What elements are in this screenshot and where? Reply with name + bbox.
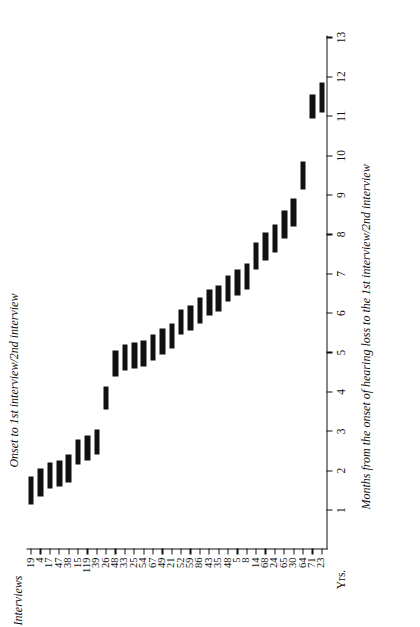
range-bar: [290, 198, 295, 226]
range-bar: [37, 468, 42, 496]
y-tick: [68, 548, 69, 554]
figure-page: Onset to 1st interview/2nd interview Int…: [0, 0, 420, 627]
y-tick: [133, 548, 134, 554]
x-tick-label: 1: [334, 507, 346, 513]
range-bar: [309, 94, 314, 118]
y-tick: [321, 548, 322, 554]
x-tick-label: 8: [334, 231, 346, 237]
range-bar: [262, 232, 267, 260]
y-tick: [283, 548, 284, 554]
y-tick: [264, 548, 265, 554]
y-axis-line: [26, 548, 327, 549]
range-bar: [187, 305, 192, 331]
y-tick: [152, 548, 153, 554]
y-tick: [236, 548, 237, 554]
range-bar: [75, 439, 80, 465]
y-tick: [189, 548, 190, 554]
x-tick: [326, 194, 332, 195]
x-tick: [326, 430, 332, 431]
range-bar: [56, 460, 61, 486]
x-tick-label: 5: [334, 349, 346, 355]
rotated-figure-stage: Onset to 1st interview/2nd interview Int…: [0, 0, 420, 627]
y-tick: [58, 548, 59, 554]
y-tick: [105, 548, 106, 554]
x-tick: [326, 36, 332, 37]
range-bar: [159, 328, 164, 354]
x-tick-label: 10: [334, 149, 346, 161]
y-tick: [49, 548, 50, 554]
range-bar: [281, 210, 286, 238]
range-bar: [178, 309, 183, 335]
series-title: Onset to 1st interview/2nd interview: [6, 293, 21, 467]
x-tick: [326, 233, 332, 234]
range-bar: [225, 275, 230, 301]
x-tick-label: 11: [334, 110, 346, 121]
x-tick: [326, 470, 332, 471]
y-tick: [311, 548, 312, 554]
x-tick-label: 12: [334, 71, 346, 83]
y-axis-title: Interviews: [10, 575, 25, 625]
range-bar: [300, 161, 305, 189]
y-tick: [143, 548, 144, 554]
x-axis-title: Months from the onset of hearing loss to…: [358, 164, 373, 509]
x-tick: [326, 155, 332, 156]
y-tick: [39, 548, 40, 554]
y-tick: [161, 548, 162, 554]
range-bar: [197, 297, 202, 323]
range-bar: [215, 285, 220, 311]
y-tick: [96, 548, 97, 554]
range-bar: [272, 224, 277, 252]
y-tick: [180, 548, 181, 554]
y-tick: [274, 548, 275, 554]
y-tick: [255, 548, 256, 554]
range-bar: [244, 263, 249, 289]
range-bar: [206, 289, 211, 315]
range-bar: [319, 82, 324, 112]
case-label: 23: [316, 557, 327, 627]
y-tick: [208, 548, 209, 554]
range-bar: [234, 269, 239, 295]
x-unit-label: Yrs.: [334, 569, 346, 589]
y-tick: [227, 548, 228, 554]
x-tick-label: 7: [334, 270, 346, 276]
y-tick: [302, 548, 303, 554]
range-bar: [65, 454, 70, 482]
y-tick: [124, 548, 125, 554]
y-tick: [246, 548, 247, 554]
x-tick-label: 2: [334, 467, 346, 473]
x-tick: [326, 352, 332, 353]
range-bar: [169, 323, 174, 349]
range-bar: [84, 435, 89, 461]
range-bar: [28, 476, 33, 504]
range-bar: [103, 386, 108, 410]
y-tick: [77, 548, 78, 554]
y-tick: [86, 548, 87, 554]
range-bar: [47, 462, 52, 488]
range-bar: [122, 344, 127, 370]
range-bar: [140, 340, 145, 366]
x-tick: [326, 391, 332, 392]
x-tick: [326, 115, 332, 116]
y-tick: [199, 548, 200, 554]
x-tick-label: 13: [334, 31, 346, 43]
x-tick: [326, 312, 332, 313]
x-tick: [326, 76, 332, 77]
x-tick-label: 6: [334, 310, 346, 316]
x-tick-label: 4: [334, 389, 346, 395]
y-tick: [171, 548, 172, 554]
y-tick: [218, 548, 219, 554]
plot-area: [26, 37, 326, 549]
range-bar: [253, 242, 258, 270]
x-tick: [326, 509, 332, 510]
x-tick-label: 3: [334, 428, 346, 434]
x-tick-label: 9: [334, 192, 346, 198]
y-tick: [293, 548, 294, 554]
y-tick: [114, 548, 115, 554]
range-bar: [150, 334, 155, 360]
range-bar: [131, 342, 136, 368]
x-tick: [326, 273, 332, 274]
range-bar: [112, 350, 117, 376]
x-axis-line: [326, 35, 327, 549]
range-bar: [94, 429, 99, 455]
y-tick: [30, 548, 31, 554]
